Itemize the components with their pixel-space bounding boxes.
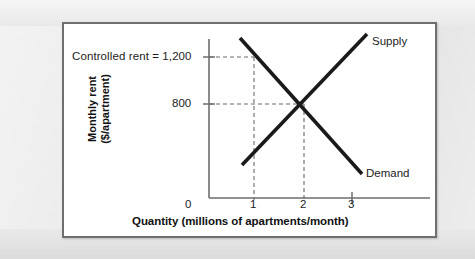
x-axis-tick-label-2: 2 bbox=[300, 199, 306, 211]
x-axis-tick-label-1: 1 bbox=[250, 199, 256, 211]
supply-curve bbox=[242, 34, 367, 165]
x-axis-title: Quantity (millions of apartments/month) bbox=[132, 216, 349, 228]
figure-frame: Controlled rent = 1,200 800 Monthly rent… bbox=[62, 22, 437, 238]
x-axis-tick-label-3: 3 bbox=[348, 199, 354, 211]
supply-curve-label: Supply bbox=[372, 36, 407, 48]
demand-curve-label: Demand bbox=[366, 168, 409, 180]
x-axis-tick-label-0: 0 bbox=[185, 199, 191, 211]
y-axis-title: Monthly rent ($/apartment) bbox=[86, 49, 112, 169]
y-axis-tick-label-800: 800 bbox=[172, 98, 191, 110]
